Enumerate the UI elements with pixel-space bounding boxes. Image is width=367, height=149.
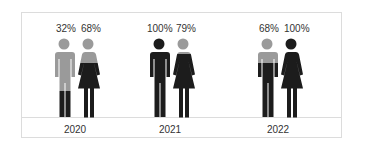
- male-percent-label: 68%: [259, 23, 279, 34]
- year-label: 2020: [30, 124, 120, 135]
- year-label: 2022: [233, 124, 323, 135]
- female-figure-icon: [171, 38, 195, 118]
- male-figure-icon: [53, 38, 75, 118]
- female-percent-label: 68%: [81, 23, 101, 34]
- year-group-2022: 68% 100% 2022: [233, 0, 323, 149]
- male-percent-label: 100%: [147, 23, 173, 34]
- year-label: 2021: [125, 124, 215, 135]
- female-figure-icon: [279, 38, 303, 118]
- male-figure-icon: [256, 38, 278, 118]
- female-percent-label: 79%: [176, 23, 196, 34]
- male-percent-label: 32%: [56, 23, 76, 34]
- year-group-2021: 100% 79% 2021: [125, 0, 215, 149]
- female-percent-label: 100%: [284, 23, 310, 34]
- female-figure-icon: [76, 38, 100, 118]
- year-group-2020: 32% 68% 2020: [30, 0, 120, 149]
- male-figure-icon: [148, 38, 170, 118]
